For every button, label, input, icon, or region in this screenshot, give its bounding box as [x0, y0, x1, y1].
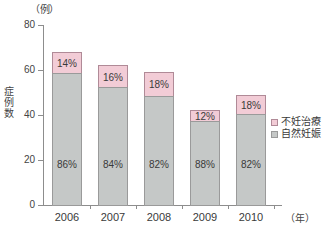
bar-2010-gray-label: 82% [237, 159, 265, 170]
legend-item-natural[interactable]: 自然妊娠 [271, 128, 321, 140]
x-label-2009: 2009 [182, 211, 228, 223]
bar-2009[interactable]: 12% 88% [190, 110, 220, 205]
bar-2009-gray-label: 88% [191, 159, 219, 170]
legend-label-natural: 自然妊娠 [281, 128, 321, 140]
x-axis-unit-label: （年） [285, 210, 315, 225]
y-tick-label-80: 80 [24, 19, 35, 30]
y-axis-title-char-3: 数 [3, 108, 15, 119]
y-tick-60: 60 [38, 70, 44, 71]
y-tick-label-40: 40 [24, 109, 35, 120]
bar-2006-segment-natural[interactable]: 86% [52, 73, 82, 206]
x-tick-4 [228, 205, 229, 209]
y-axis-title-char-1: 症 [3, 86, 15, 97]
bar-2008[interactable]: 18% 82% [144, 72, 174, 205]
bar-2008-segment-infertility[interactable]: 18% [144, 72, 174, 97]
bar-2010-segment-infertility[interactable]: 18% [236, 95, 266, 115]
chart-legend: 不妊治療 自然妊娠 [271, 116, 321, 140]
bar-2008-segment-natural[interactable]: 82% [144, 96, 174, 206]
bar-2008-gray-label: 82% [145, 159, 173, 170]
y-tick-label-0: 0 [29, 199, 35, 210]
bar-2006-pink-label: 14% [53, 58, 81, 69]
y-axis-title: 症 例 数 [3, 86, 15, 119]
bar-2007-gray-label: 84% [99, 159, 127, 170]
bar-2010[interactable]: 18% 82% [236, 95, 266, 206]
y-tick-0: 0 [38, 205, 44, 206]
bar-2007-pink-label: 16% [99, 71, 127, 82]
bar-2009-segment-natural[interactable]: 88% [190, 121, 220, 207]
y-tick-label-20: 20 [24, 154, 35, 165]
bar-2007-segment-infertility[interactable]: 16% [98, 65, 128, 88]
y-tick-80: 80 [38, 25, 44, 26]
bar-2006-gray-label: 86% [53, 159, 81, 170]
x-label-2010: 2010 [228, 211, 274, 223]
legend-label-infertility: 不妊治療 [281, 116, 321, 128]
bar-2006-segment-infertility[interactable]: 14% [52, 52, 82, 75]
x-tick-3 [182, 205, 183, 209]
y-tick-40: 40 [38, 115, 44, 116]
y-tick-20: 20 [38, 160, 44, 161]
legend-item-infertility[interactable]: 不妊治療 [271, 116, 321, 128]
y-tick-label-60: 60 [24, 64, 35, 75]
x-label-2006: 2006 [44, 211, 90, 223]
bar-2010-pink-label: 18% [237, 99, 265, 110]
bar-2008-pink-label: 18% [145, 79, 173, 90]
y-axis-unit-label: （例） [30, 1, 59, 16]
bar-2006[interactable]: 14% 86% [52, 52, 82, 205]
x-label-2007: 2007 [90, 211, 136, 223]
stacked-bar-chart: （例） 症 例 数 80 60 40 20 0 [0, 0, 333, 233]
y-axis-title-char-2: 例 [3, 97, 15, 108]
x-label-2008: 2008 [136, 211, 182, 223]
x-tick-5 [274, 205, 275, 209]
x-tick-2 [136, 205, 137, 209]
legend-swatch-natural-icon [271, 131, 278, 138]
legend-swatch-infertility-icon [271, 119, 278, 126]
bar-2007[interactable]: 16% 84% [98, 65, 128, 205]
plot-area: 80 60 40 20 0 14% 86% [44, 25, 282, 205]
bar-2010-segment-natural[interactable]: 82% [236, 114, 266, 206]
bar-2007-segment-natural[interactable]: 84% [98, 87, 128, 206]
x-tick-1 [90, 205, 91, 209]
